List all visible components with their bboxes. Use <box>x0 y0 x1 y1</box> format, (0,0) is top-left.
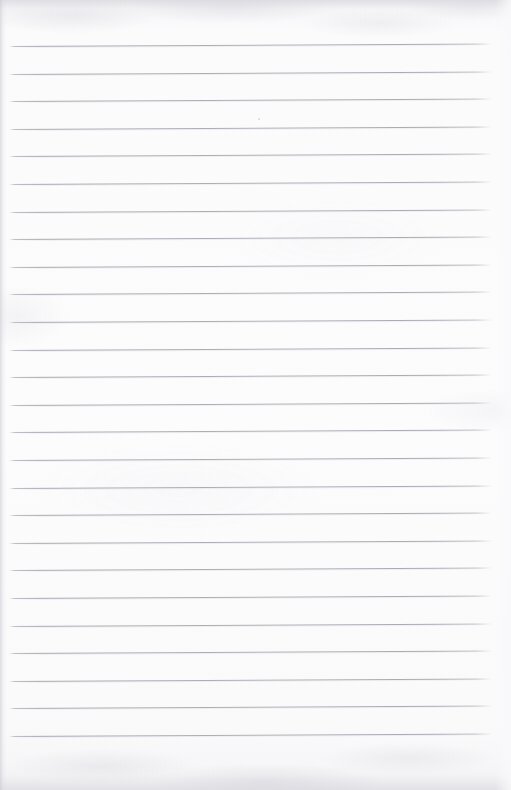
scanned-page <box>0 0 511 790</box>
writing-area[interactable] <box>9 46 492 736</box>
